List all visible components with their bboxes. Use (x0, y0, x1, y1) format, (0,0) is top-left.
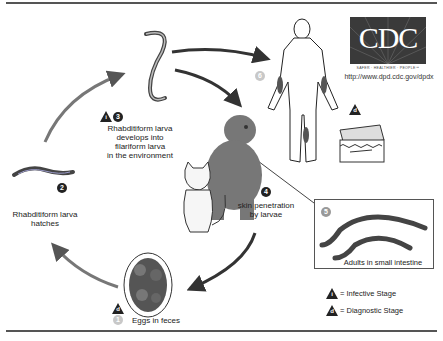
cdc-tagline: SAFER · HEALTHIER · PEOPLE™ (350, 66, 426, 70)
stage-3-badge: 3 (113, 112, 123, 122)
legend-infective-label: = Infective Stage (340, 289, 396, 298)
arrow-4-to-1 (192, 233, 255, 288)
stage-2-badge: 2 (57, 183, 67, 193)
stage-4-badge: 4 (261, 187, 271, 197)
stage-1-badge: 1 (113, 315, 123, 325)
stage-1-label: Eggs in feces (132, 316, 192, 325)
arrow-3-to-dog (175, 70, 238, 103)
stage-4-label: skin penetration by larvae (236, 201, 296, 219)
cdc-logo: CDC (350, 17, 426, 64)
arrow-3-to-human (172, 50, 265, 58)
cdc-logo-text: CDC (350, 21, 426, 55)
dpdx-url[interactable]: http://www.dpd.cdc.gov/dpdx (339, 73, 439, 80)
stage-3-label: Rhabditiform larva develops into filarif… (100, 124, 180, 160)
legend-diagnostic-icon: d (326, 305, 338, 316)
legend-infective-icon: i (326, 288, 338, 299)
diagnostic-stage-marker-6: d (349, 104, 361, 115)
stage-2-label: Rhabditiform larva hatches (10, 210, 80, 228)
diagnostic-stage-marker-1: d (112, 303, 124, 314)
legend-diagnostic-label: = Diagnostic Stage (340, 306, 403, 315)
skin-section-icon (340, 125, 384, 162)
arrow-1-to-2 (55, 247, 118, 287)
stage-6-badge: 6 (255, 71, 265, 81)
egg-icon (124, 253, 172, 317)
infective-stage-marker: i (100, 111, 112, 122)
